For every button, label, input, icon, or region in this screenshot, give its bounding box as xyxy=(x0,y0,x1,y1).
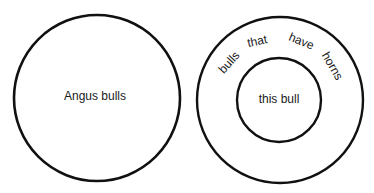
diagram-canvas: Angus bulls bulls that have horns this b… xyxy=(0,0,374,193)
outer-word-have: have xyxy=(287,30,317,53)
angus-bulls-label: Angus bulls xyxy=(64,89,126,103)
outer-word-bulls: bulls xyxy=(216,48,243,76)
this-bull-label: this bull xyxy=(259,92,300,106)
outer-word-horns: horns xyxy=(319,49,346,82)
outer-word-that: that xyxy=(246,32,269,50)
